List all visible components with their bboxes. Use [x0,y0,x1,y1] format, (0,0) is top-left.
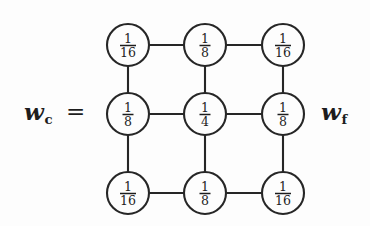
stencil-node: 116 [262,24,304,66]
fraction-numerator: 1 [201,31,209,46]
fraction-numerator: 1 [124,31,132,46]
stencil-node: 18 [262,93,304,135]
stencil-node: 18 [184,24,226,66]
stencil-node: 116 [107,24,149,66]
fraction-numerator: 1 [279,100,287,115]
fraction-denominator: 8 [124,114,132,129]
fraction-denominator: 4 [201,114,209,129]
stencil-node: 14 [184,93,226,135]
fraction-denominator: 8 [201,193,209,208]
stencil-node: 116 [107,172,149,214]
stencil-node: 18 [184,172,226,214]
fraction-numerator: 1 [124,179,132,194]
fraction-numerator: 1 [279,31,287,46]
fraction-denominator: 16 [275,45,291,60]
fraction-numerator: 1 [279,179,287,194]
fraction-denominator: 16 [275,193,291,208]
fraction-numerator: 1 [124,100,132,115]
stencil-node: 116 [262,172,304,214]
fraction-denominator: 8 [279,114,287,129]
stencil-figure: wc = wf 1161811618141811618116 [0,0,370,226]
fraction-numerator: 1 [201,179,209,194]
fraction-denominator: 16 [120,193,136,208]
fraction-denominator: 16 [120,45,136,60]
node-group: 1161811618141811618116 [107,24,304,214]
fraction-numerator: 1 [201,100,209,115]
fraction-denominator: 8 [201,45,209,60]
stencil-node: 18 [107,93,149,135]
stencil-graph: 1161811618141811618116 [0,0,370,226]
